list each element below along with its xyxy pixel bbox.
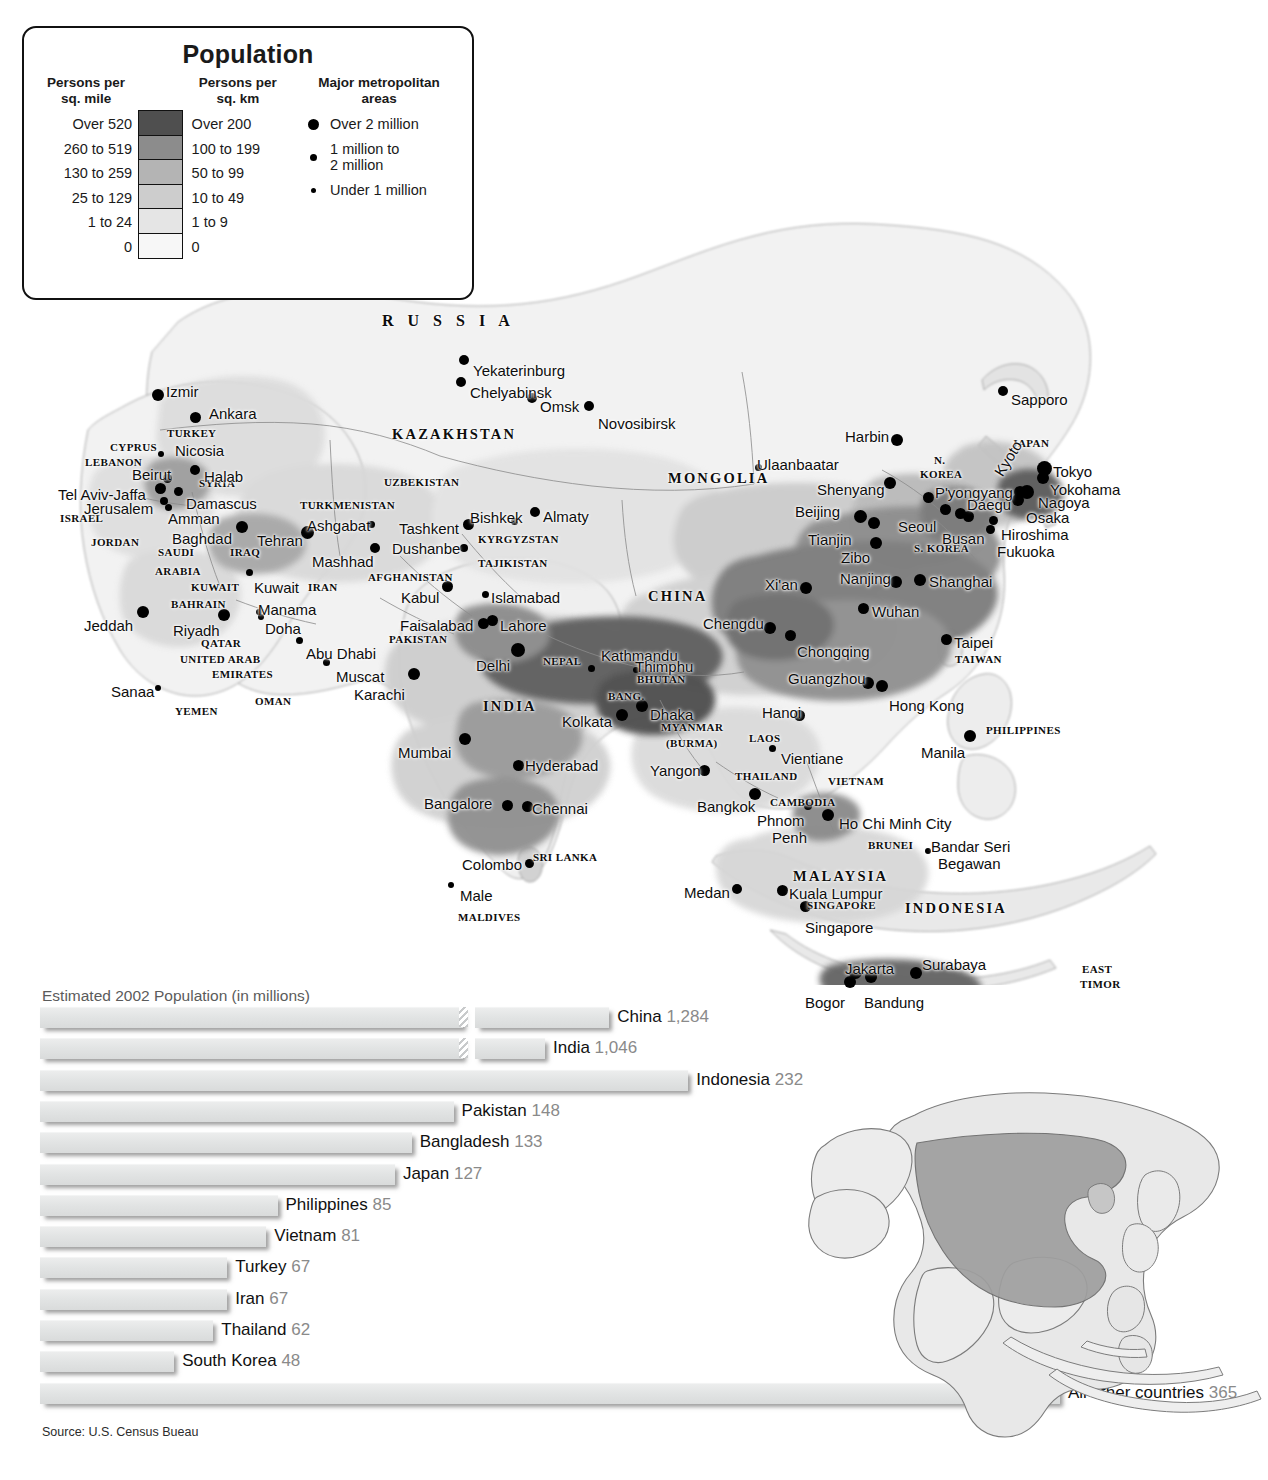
city-label: Bandung bbox=[864, 994, 924, 1011]
chart-bar-value: 67 bbox=[269, 1288, 288, 1307]
city-dot bbox=[858, 603, 869, 614]
legend-row-km-5: 0 bbox=[190, 235, 286, 260]
chart-bar-row: Turkey 67 bbox=[40, 1257, 800, 1277]
city-dot bbox=[218, 609, 230, 621]
legend-metro-row-1: 1 million to2 million bbox=[296, 141, 462, 173]
chart-bar-value: 48 bbox=[281, 1351, 300, 1370]
city-dot bbox=[190, 465, 200, 475]
chart-bar-segment bbox=[40, 1038, 463, 1059]
axis-break-marker bbox=[459, 1007, 468, 1027]
chart-bar-label: Thailand 62 bbox=[221, 1320, 310, 1340]
city-dot bbox=[513, 760, 524, 771]
chart-bar-label: China 1,284 bbox=[617, 1007, 709, 1027]
city-dot bbox=[794, 710, 805, 721]
legend-row-km-0: Over 200 bbox=[190, 112, 286, 137]
city-label: Bogor bbox=[805, 994, 845, 1011]
city-dot bbox=[755, 464, 762, 471]
legend-heading-metro: Major metropolitanareas bbox=[296, 75, 462, 106]
legend-swatch-4 bbox=[139, 209, 181, 234]
chart-bar-name: South Korea bbox=[182, 1351, 277, 1370]
legend-metro-label-1: 1 million to2 million bbox=[330, 141, 399, 173]
chart-bar bbox=[40, 1070, 688, 1091]
city-dot bbox=[460, 544, 468, 552]
city-dot bbox=[986, 525, 995, 534]
chart-bar-row: China 1,284 bbox=[40, 1007, 800, 1027]
chart-bar-label: South Korea 48 bbox=[182, 1351, 300, 1371]
city-dot bbox=[155, 685, 161, 691]
chart-bar-value: 133 bbox=[514, 1132, 542, 1151]
chart-bar-name: Bangladesh bbox=[420, 1132, 510, 1151]
city-dot bbox=[323, 659, 330, 666]
map-legend: Population Persons persq. mile Over 5202… bbox=[22, 26, 474, 300]
city-dot bbox=[511, 643, 525, 657]
chart-bar-value: 81 bbox=[341, 1226, 360, 1245]
legend-column-metro-areas: Major metropolitanareas Over 2 million1 … bbox=[296, 75, 462, 259]
city-dot bbox=[246, 569, 253, 576]
legend-metro-row-0: Over 2 million bbox=[296, 110, 462, 138]
chart-bar-row: All other countries 365 bbox=[40, 1383, 800, 1403]
legend-metro-label-2: Under 1 million bbox=[330, 182, 427, 198]
city-dot bbox=[769, 745, 776, 752]
medium-city-dot-icon bbox=[296, 154, 330, 161]
small-city-dot-icon bbox=[296, 188, 330, 193]
chart-bar-segment bbox=[475, 1007, 609, 1028]
chart-bar-name: Philippines bbox=[286, 1194, 368, 1213]
city-dot bbox=[584, 401, 594, 411]
chart-bar-segment bbox=[40, 1007, 463, 1028]
chart-bar-value: 62 bbox=[291, 1320, 310, 1339]
city-dot bbox=[448, 882, 454, 888]
axis-break-marker bbox=[459, 1038, 468, 1058]
asia-population-map: R U S S I AKAZAKHSTANMONGOLIACHINAINDIAI… bbox=[0, 0, 1268, 985]
chart-bar-name: Turkey bbox=[235, 1257, 286, 1276]
legend-row-km-2: 50 to 99 bbox=[190, 161, 286, 186]
asia-with-usa-overlay-inset bbox=[795, 1075, 1265, 1475]
legend-swatch-0 bbox=[139, 111, 181, 136]
legend-heading-sq-km: Persons persq. km bbox=[190, 75, 286, 106]
chart-bar-segment bbox=[475, 1038, 545, 1059]
city-dot bbox=[522, 801, 533, 812]
chart-bar-name: India bbox=[553, 1038, 590, 1057]
chart-bar-value: 148 bbox=[532, 1100, 560, 1119]
city-dot bbox=[258, 614, 264, 620]
chart-bar-label: Japan 127 bbox=[403, 1163, 482, 1183]
legend-row-mile-4: 1 to 24 bbox=[34, 210, 138, 235]
city-dot bbox=[511, 518, 518, 525]
chart-bar-name: China bbox=[617, 1007, 661, 1026]
chart-bar-row: Thailand 62 bbox=[40, 1320, 800, 1340]
city-dot bbox=[370, 543, 380, 553]
city-dot bbox=[368, 521, 375, 528]
city-dot bbox=[1037, 472, 1049, 484]
chart-bar bbox=[40, 1351, 174, 1372]
city-dot bbox=[800, 582, 812, 594]
chart-bar-label: Iran 67 bbox=[235, 1288, 288, 1308]
city-dot bbox=[870, 537, 882, 549]
city-dot bbox=[876, 680, 888, 692]
city-dot bbox=[459, 355, 469, 365]
city-dot bbox=[963, 511, 974, 522]
city-dot bbox=[822, 809, 834, 821]
city-dot bbox=[165, 504, 172, 511]
city-dot bbox=[923, 492, 934, 503]
city-dot bbox=[636, 700, 648, 712]
chart-bar-row: Pakistan 148 bbox=[40, 1101, 800, 1121]
chart-bar-value: 1,046 bbox=[595, 1038, 638, 1057]
legend-heading-sq-mile: Persons persq. mile bbox=[34, 75, 138, 106]
chart-bar bbox=[40, 1164, 395, 1185]
city-dot bbox=[190, 412, 201, 423]
chart-bar-value: 127 bbox=[454, 1163, 482, 1182]
chart-bar-label: India 1,046 bbox=[553, 1038, 637, 1058]
chart-bar bbox=[40, 1195, 278, 1216]
chart-bar-name: Japan bbox=[403, 1163, 449, 1182]
legend-metro-row-2: Under 1 million bbox=[296, 177, 462, 205]
city-dot bbox=[487, 615, 498, 626]
legend-row-mile-0: Over 520 bbox=[34, 112, 138, 137]
legend-row-mile-5: 0 bbox=[34, 235, 138, 260]
city-dot bbox=[442, 581, 453, 592]
city-dot bbox=[158, 451, 164, 457]
city-dot bbox=[1012, 494, 1024, 506]
legend-swatch-5 bbox=[139, 234, 181, 259]
city-dot bbox=[891, 434, 903, 446]
city-dot bbox=[777, 885, 788, 896]
city-dot bbox=[301, 526, 314, 539]
city-dot bbox=[699, 765, 710, 776]
